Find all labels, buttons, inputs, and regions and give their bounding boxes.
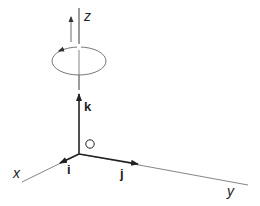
k-label: k: [84, 99, 92, 114]
x-axis-label: x: [12, 165, 21, 181]
y-axis-label: y: [226, 183, 235, 199]
rotation-arrow-icon: [59, 49, 64, 51]
j-label: j: [119, 166, 124, 181]
i-label: i: [67, 162, 71, 177]
origin-marker: [86, 140, 94, 148]
j-vector-arrow: [79, 154, 138, 164]
z-axis-label: z: [83, 8, 91, 24]
coordinate-diagram: z k x i j y: [0, 0, 260, 206]
